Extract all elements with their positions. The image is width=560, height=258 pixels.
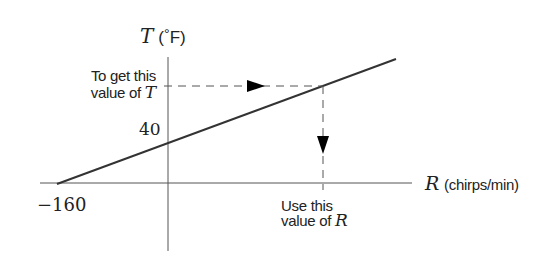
y-intercept-label: 40 <box>139 119 161 139</box>
x-axis-unit: (chirps/min) <box>444 176 519 193</box>
get-t-annotation: To get this value of T <box>72 68 156 101</box>
x-axis-label: R (chirps/min) <box>425 172 519 195</box>
use-r-line2-symbol: R <box>335 210 348 230</box>
x-axis-symbol: R <box>425 172 439 194</box>
y-axis-unit: F) <box>170 28 186 47</box>
y-axis-symbol: T <box>140 24 153 48</box>
get-t-line2-text: value of <box>91 84 141 101</box>
x-intercept-label: −160 <box>37 194 86 215</box>
chirp-temperature-diagram: T (°F) To get this value of T 40 −160 R … <box>0 0 560 258</box>
diagram-svg <box>0 0 560 258</box>
use-r-annotation: Use this value of R <box>281 198 348 229</box>
down-arrow-icon <box>317 136 329 154</box>
get-t-line2-symbol: T <box>145 82 156 102</box>
get-t-line1: To get this <box>72 68 156 84</box>
use-r-line2-text: value of <box>281 212 331 229</box>
right-arrow-icon <box>247 80 265 92</box>
y-axis-label: T (°F) <box>140 24 186 48</box>
